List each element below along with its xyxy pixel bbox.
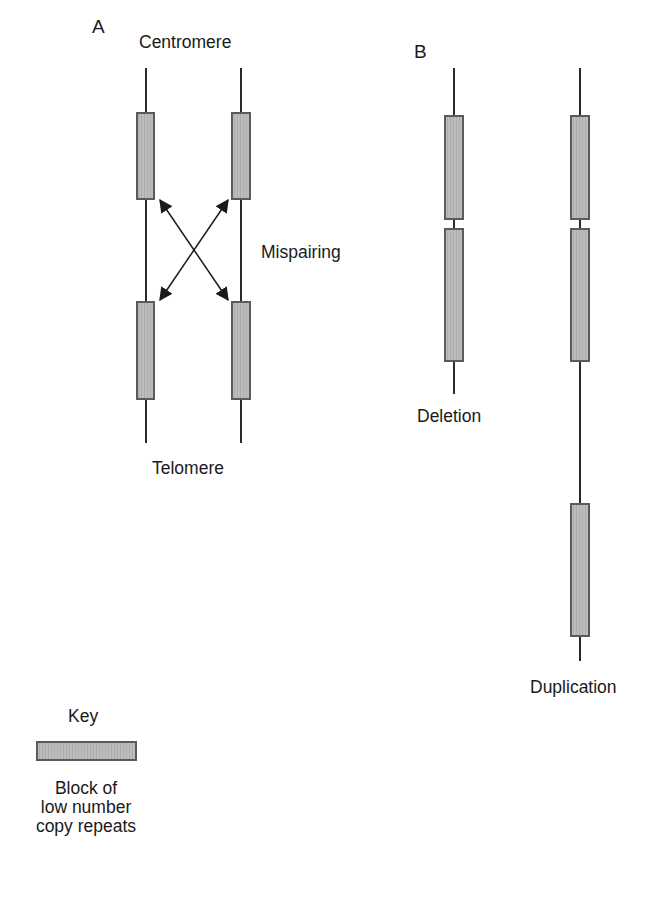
panel-a: A Centromere Mispairing Telomere bbox=[92, 16, 341, 478]
key-desc-line3: copy repeats bbox=[36, 816, 136, 836]
panel-b: B Deletion Duplication bbox=[414, 41, 617, 697]
panel-a-label: A bbox=[92, 16, 105, 37]
chromosome-deletion bbox=[445, 68, 463, 394]
mispairing-label: Mispairing bbox=[261, 242, 341, 262]
key-desc-line1: Block of bbox=[55, 778, 117, 798]
key-desc-line2: low number bbox=[41, 797, 132, 817]
duplication-label: Duplication bbox=[530, 677, 617, 697]
repeat-block bbox=[137, 113, 154, 199]
repeat-block bbox=[571, 229, 589, 361]
repeat-block bbox=[571, 116, 589, 219]
panel-b-label: B bbox=[414, 41, 427, 62]
deletion-label: Deletion bbox=[417, 406, 481, 426]
key-legend: Key Block of low number copy repeats bbox=[36, 706, 136, 836]
chromosome-a-left bbox=[137, 68, 154, 443]
chromosome-duplication bbox=[571, 68, 589, 661]
chromosome-a-right bbox=[232, 68, 250, 443]
repeat-block bbox=[232, 302, 250, 399]
repeat-block bbox=[445, 229, 463, 361]
repeat-block bbox=[571, 504, 589, 636]
key-title: Key bbox=[68, 706, 98, 726]
repeat-block bbox=[232, 113, 250, 199]
repeat-block bbox=[137, 302, 154, 399]
telomere-label: Telomere bbox=[152, 458, 224, 478]
key-block-swatch bbox=[37, 742, 136, 760]
recombination-diagram: A Centromere Mispairing Telomere B Delet… bbox=[0, 0, 671, 900]
repeat-block bbox=[445, 116, 463, 219]
centromere-label: Centromere bbox=[139, 32, 231, 52]
